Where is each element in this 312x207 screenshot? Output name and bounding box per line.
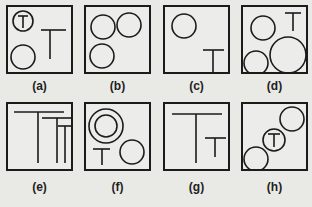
panel-h-figure	[243, 104, 306, 169]
panel-h	[241, 102, 308, 171]
panel-d-figure	[243, 7, 306, 72]
panel-f-figure	[86, 104, 149, 169]
panel-d-label: (d)	[241, 79, 308, 93]
panel-h-label: (h)	[241, 180, 308, 194]
panel-a	[6, 5, 73, 74]
panel-b-label: (b)	[84, 79, 151, 93]
panel-f	[84, 102, 151, 171]
panel-c-label: (c)	[163, 79, 230, 93]
panel-e-figure	[8, 104, 71, 169]
panel-b-figure	[86, 7, 149, 72]
panel-a-label: (a)	[6, 79, 73, 93]
panel-g	[163, 102, 230, 171]
panel-c-figure	[165, 7, 228, 72]
panel-f-label: (f)	[84, 180, 151, 194]
panel-b	[84, 5, 151, 74]
panel-g-figure	[165, 104, 228, 169]
panel-c	[163, 5, 230, 74]
panel-e	[6, 102, 73, 171]
panel-g-label: (g)	[163, 180, 230, 194]
panel-e-label: (e)	[6, 180, 73, 194]
panel-d	[241, 5, 308, 74]
panel-a-figure	[8, 7, 71, 72]
